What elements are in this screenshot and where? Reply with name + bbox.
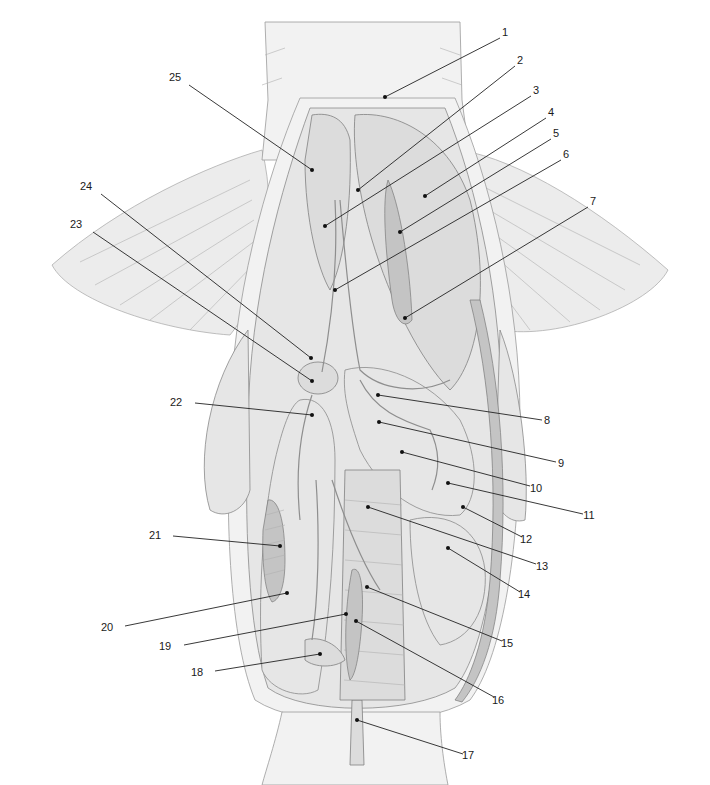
callout-number: 10 — [530, 482, 542, 494]
callout-number: 23 — [70, 218, 82, 230]
pointer-dot — [376, 393, 380, 397]
callout-number: 5 — [553, 127, 559, 139]
illustration — [52, 22, 668, 785]
pointer-dot — [461, 505, 465, 509]
pointer-dot — [365, 585, 369, 589]
callout-number: 20 — [101, 621, 113, 633]
callout-number: 12 — [520, 533, 532, 545]
callout-number: 6 — [563, 148, 569, 160]
pointer-dot — [446, 481, 450, 485]
callout-number: 19 — [159, 640, 171, 652]
pointer-dot — [278, 544, 282, 548]
left-body-flap — [204, 330, 250, 514]
pointer-dot — [310, 168, 314, 172]
pointer-dot — [318, 652, 322, 656]
pointer-dot — [366, 505, 370, 509]
pointer-dot — [398, 230, 402, 234]
anatomical-diagram: 1234567891011121314151617181920212223242… — [0, 0, 710, 785]
callout-number: 3 — [533, 84, 539, 96]
callout-number: 9 — [558, 457, 564, 469]
callout-number: 11 — [583, 509, 594, 521]
callout-number: 14 — [518, 588, 530, 600]
pointer-dot — [310, 413, 314, 417]
callout-number: 21 — [149, 529, 161, 541]
pointer-dot — [323, 224, 327, 228]
callout-number: 22 — [170, 396, 182, 408]
left-pectoral-fin — [52, 150, 269, 335]
pointer-dot — [285, 591, 289, 595]
pointer-dot — [423, 194, 427, 198]
pointer-dot — [310, 379, 314, 383]
pointer-dot — [356, 188, 360, 192]
pointer-dot — [400, 450, 404, 454]
callout-number: 17 — [462, 749, 474, 761]
callout-number: 1 — [502, 26, 508, 38]
pointer-dot — [377, 420, 381, 424]
nodule — [298, 362, 338, 394]
pointer-dot — [446, 546, 450, 550]
pointer-dot — [383, 95, 387, 99]
callout-number: 15 — [501, 637, 513, 649]
pointer-dot — [309, 356, 313, 360]
pointer-dot — [355, 718, 359, 722]
callout-number: 4 — [548, 106, 554, 118]
callout-number: 8 — [544, 414, 550, 426]
callout-number: 7 — [590, 195, 596, 207]
callout-number: 16 — [492, 694, 504, 706]
callout-number: 13 — [536, 560, 548, 572]
callout-number: 18 — [191, 666, 203, 678]
pointer-dot — [354, 619, 358, 623]
pointer-dot — [403, 316, 407, 320]
callout-number: 24 — [80, 180, 92, 192]
callout-number: 2 — [517, 54, 523, 66]
pointer-dot — [333, 288, 337, 292]
callout-number: 25 — [169, 71, 181, 83]
pointer-dot — [344, 612, 348, 616]
